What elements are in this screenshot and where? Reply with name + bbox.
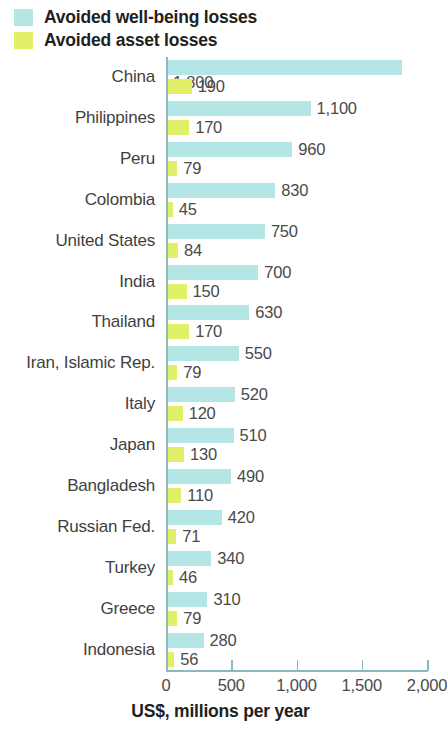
bar-value-label: 960 xyxy=(298,142,325,157)
bar-group-wellbeing: 550 xyxy=(167,346,272,361)
category-label: Japan xyxy=(0,435,155,455)
bar-value-label: 71 xyxy=(182,529,200,544)
category-label: Colombia xyxy=(0,190,155,210)
bar-group-wellbeing: 960 xyxy=(167,142,325,157)
category-label: United States xyxy=(0,231,155,251)
bar-value-label: 170 xyxy=(195,324,222,339)
bar-wellbeing xyxy=(167,469,231,484)
bar-group-wellbeing: 420 xyxy=(167,510,255,525)
bar-asset xyxy=(167,488,181,503)
x-axis-title: US$, millions per year xyxy=(0,701,441,722)
category-label: China xyxy=(0,67,155,87)
bar-asset xyxy=(167,79,192,94)
bar-chart-plot-area: China1,800190Philippines1,100170Peru9607… xyxy=(0,57,441,671)
bar-wellbeing xyxy=(167,633,204,648)
category-label: Philippines xyxy=(0,108,155,128)
chart-row: Colombia83045 xyxy=(0,181,441,224)
chart-row: China1,800190 xyxy=(0,58,441,101)
bar-asset xyxy=(167,284,187,299)
chart-row: Peru96079 xyxy=(0,140,441,183)
bar-asset xyxy=(167,529,176,544)
chart-row: Italy520120 xyxy=(0,385,441,428)
bar-value-label: 79 xyxy=(183,365,201,380)
bar-wellbeing xyxy=(167,428,234,443)
category-label: Bangladesh xyxy=(0,476,155,496)
bar-asset xyxy=(167,324,189,339)
bar-wellbeing xyxy=(167,592,207,607)
chart-row: Japan510130 xyxy=(0,426,441,469)
category-label: Greece xyxy=(0,599,155,619)
bar-group-asset: 79 xyxy=(167,161,201,176)
bar-asset xyxy=(167,365,177,380)
bar-group-asset: 71 xyxy=(167,529,200,544)
bar-asset xyxy=(167,570,173,585)
bar-group-wellbeing: 310 xyxy=(167,592,240,607)
bar-value-label: 490 xyxy=(237,469,264,484)
bar-group-wellbeing: 1,100 xyxy=(167,101,357,116)
bar-asset xyxy=(167,120,189,135)
bar-group-asset: 84 xyxy=(167,243,202,258)
bar-value-label: 120 xyxy=(189,406,216,421)
chart-row: Turkey34046 xyxy=(0,549,441,592)
category-label: Turkey xyxy=(0,558,155,578)
chart-row: Greece31079 xyxy=(0,590,441,633)
bar-asset xyxy=(167,202,173,217)
bar-value-label: 830 xyxy=(281,183,308,198)
chart-row: Philippines1,100170 xyxy=(0,99,441,142)
legend-swatch-asset xyxy=(14,32,33,49)
bar-asset xyxy=(167,243,178,258)
category-label: Italy xyxy=(0,394,155,414)
bar-value-label: 56 xyxy=(180,652,198,667)
bar-wellbeing xyxy=(167,510,222,525)
bar-value-label: 110 xyxy=(187,488,213,503)
bar-group-wellbeing: 510 xyxy=(167,428,266,443)
bar-group-wellbeing: 630 xyxy=(167,305,282,320)
bar-value-label: 700 xyxy=(264,265,291,280)
legend-label-wellbeing: Avoided well-being losses xyxy=(44,7,257,28)
category-label: Peru xyxy=(0,149,155,169)
bar-group-wellbeing: 490 xyxy=(167,469,264,484)
bar-asset xyxy=(167,447,184,462)
bar-group-asset: 46 xyxy=(167,570,197,585)
bar-group-wellbeing: 280 xyxy=(167,633,236,648)
category-label: India xyxy=(0,272,155,292)
bar-group-wellbeing: 340 xyxy=(167,551,244,566)
chart-row: Russian Fed.42071 xyxy=(0,508,441,551)
bar-group-asset: 120 xyxy=(167,406,216,421)
chart-row: Indonesia28056 xyxy=(0,631,441,674)
x-axis-tick xyxy=(297,660,299,671)
bar-value-label: 79 xyxy=(183,611,201,626)
x-axis-tick-label: 1,000 xyxy=(276,676,316,695)
bar-wellbeing xyxy=(167,183,275,198)
chart-row: India700150 xyxy=(0,263,441,306)
bar-value-label: 150 xyxy=(193,284,220,299)
x-axis-tick-label: 0 xyxy=(162,676,171,695)
bar-wellbeing xyxy=(167,224,265,239)
bar-value-label: 1,100 xyxy=(317,101,357,116)
bar-group-asset: 56 xyxy=(167,652,198,667)
bar-asset xyxy=(167,652,174,667)
chart-row: Iran, Islamic Rep.55079 xyxy=(0,344,441,387)
bar-value-label: 420 xyxy=(228,510,255,525)
bar-asset xyxy=(167,406,183,421)
legend-swatch-wellbeing xyxy=(14,9,33,26)
bar-group-asset: 110 xyxy=(167,488,213,503)
legend-item-wellbeing: Avoided well-being losses xyxy=(14,6,434,29)
x-axis-tick-label: 1,500 xyxy=(342,676,382,695)
chart-row: Thailand630170 xyxy=(0,303,441,346)
bar-value-label: 310 xyxy=(213,592,240,607)
bar-value-label: 45 xyxy=(179,202,197,217)
bar-group-asset: 45 xyxy=(167,202,197,217)
category-label: Russian Fed. xyxy=(0,517,155,537)
bar-group-asset: 79 xyxy=(167,365,201,380)
bar-group-asset: 79 xyxy=(167,611,201,626)
x-axis-tick xyxy=(231,660,233,671)
bar-group-asset: 130 xyxy=(167,447,217,462)
bar-group-wellbeing: 1,800 xyxy=(167,60,441,75)
bar-value-label: 130 xyxy=(190,447,217,462)
bar-group-asset: 170 xyxy=(167,324,222,339)
bar-group-wellbeing: 700 xyxy=(167,265,291,280)
bar-value-label: 170 xyxy=(195,120,222,135)
bar-value-label: 520 xyxy=(241,387,268,402)
legend-item-asset: Avoided asset losses xyxy=(14,29,434,52)
